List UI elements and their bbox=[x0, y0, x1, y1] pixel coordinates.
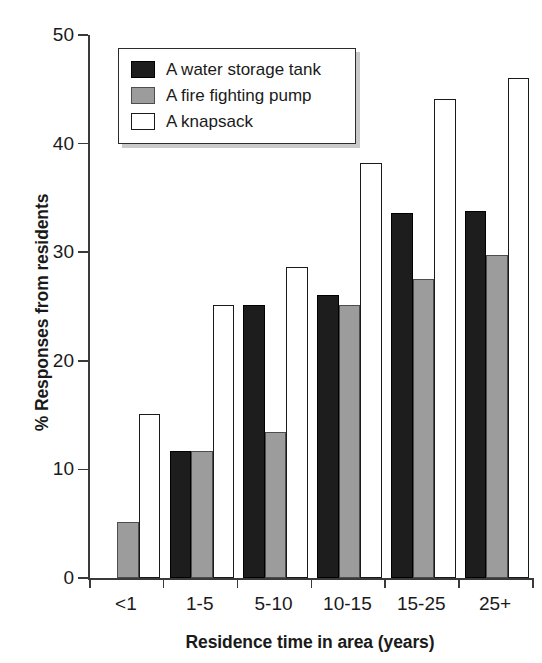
bar-gray-15-25 bbox=[413, 279, 435, 578]
bar-white-15-25 bbox=[434, 99, 456, 578]
bar-white-25+ bbox=[508, 78, 530, 578]
y-tick-label: 20 bbox=[28, 351, 74, 370]
bar-white-1-5 bbox=[213, 305, 235, 578]
x-tick-mark bbox=[89, 578, 91, 588]
bar-black-15-25 bbox=[391, 213, 413, 578]
x-tick-mark bbox=[163, 578, 165, 588]
y-tick-label: 30 bbox=[28, 242, 74, 261]
y-tick-mark bbox=[78, 469, 88, 471]
legend-swatch-gray bbox=[131, 87, 155, 104]
chart-legend: A water storage tankA fire fighting pump… bbox=[118, 48, 356, 144]
bar-gray-10-15 bbox=[339, 305, 361, 578]
bar-white-5-10 bbox=[286, 267, 308, 578]
legend-swatch-black bbox=[131, 61, 155, 78]
y-tick-mark bbox=[78, 143, 88, 145]
legend-swatch-white bbox=[131, 113, 155, 130]
bar-white-10-15 bbox=[360, 163, 382, 578]
bar-gray-1-5 bbox=[191, 451, 213, 578]
y-tick-label: 40 bbox=[28, 134, 74, 153]
x-tick-mark bbox=[458, 578, 460, 588]
x-tick-label: 25+ bbox=[458, 594, 532, 613]
bar-white-<1 bbox=[139, 414, 161, 578]
y-tick-label: 0 bbox=[28, 568, 74, 587]
bar-gray-25+ bbox=[486, 255, 508, 578]
bar-black-10-15 bbox=[317, 295, 339, 578]
legend-label: A water storage tank bbox=[166, 61, 321, 78]
x-tick-label: 15-25 bbox=[384, 594, 458, 613]
y-tick-label: 50 bbox=[28, 25, 74, 44]
legend-label: A knapsack bbox=[166, 113, 253, 130]
y-tick-mark bbox=[78, 360, 88, 362]
x-tick-mark bbox=[237, 578, 239, 588]
legend-label: A fire fighting pump bbox=[166, 87, 312, 104]
y-tick-mark bbox=[78, 577, 88, 579]
bar-black-5-10 bbox=[243, 305, 265, 578]
bar-gray-<1 bbox=[117, 522, 139, 578]
x-tick-mark bbox=[384, 578, 386, 588]
x-tick-label: <1 bbox=[89, 594, 163, 613]
bar-black-1-5 bbox=[170, 451, 192, 578]
x-tick-label: 10-15 bbox=[311, 594, 385, 613]
bar-black-25+ bbox=[465, 211, 487, 578]
legend-item: A knapsack bbox=[119, 108, 355, 134]
y-tick-mark bbox=[78, 34, 88, 36]
y-tick-mark bbox=[78, 251, 88, 253]
legend-item: A water storage tank bbox=[119, 56, 355, 82]
legend-item: A fire fighting pump bbox=[119, 82, 355, 108]
x-tick-mark bbox=[532, 578, 534, 588]
x-tick-label: 5-10 bbox=[237, 594, 311, 613]
bar-chart: % Responses from residents 01020304050 <… bbox=[0, 0, 542, 663]
x-axis-title: Residence time in area (years) bbox=[88, 632, 532, 653]
bar-gray-5-10 bbox=[265, 432, 287, 578]
y-axis-tick-labels: 01020304050 bbox=[22, 0, 74, 663]
y-tick-label: 10 bbox=[28, 459, 74, 478]
x-tick-label: 1-5 bbox=[163, 594, 237, 613]
x-tick-mark bbox=[311, 578, 313, 588]
